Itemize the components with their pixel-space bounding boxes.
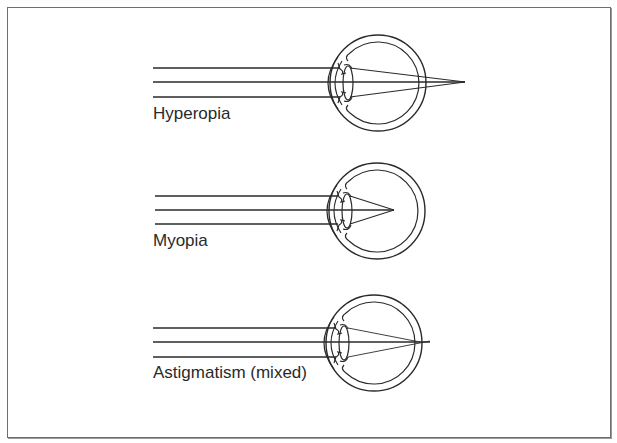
eye-diagrams (0, 0, 617, 443)
astigmatism-label: Astigmatism (mixed) (153, 363, 307, 383)
hyperopia-label: Hyperopia (153, 104, 231, 124)
myopia-label: Myopia (153, 231, 208, 251)
